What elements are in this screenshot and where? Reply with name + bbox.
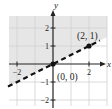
y-axis-label: y (53, 0, 58, 10)
x-axis-arrow-icon (100, 62, 106, 67)
x-tick-label: −2 (13, 68, 22, 77)
y-tick-label: −1 (40, 78, 49, 87)
point-marker (86, 43, 91, 48)
y-tick-label: 2 (45, 24, 49, 33)
point-marker (50, 61, 55, 66)
point-label: (0, 0) (57, 72, 78, 83)
x-axis-label: x (106, 59, 111, 69)
x-tick-label: 2 (87, 68, 91, 77)
y-tick-label: −2 (40, 96, 49, 105)
point-label: (2, 1) (77, 31, 98, 42)
y-axis-arrow-icon (51, 10, 56, 16)
inequality-graph: (0, 0)(2, 1) −2221−1−2 x y (0, 0, 112, 109)
y-tick-label: 1 (45, 42, 49, 51)
